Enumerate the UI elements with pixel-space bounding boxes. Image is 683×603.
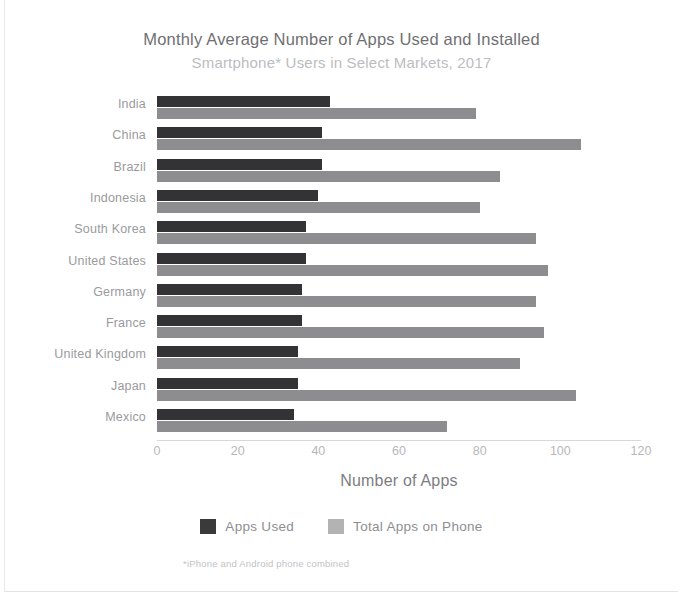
chart-footnote: *iPhone and Android phone combined <box>183 558 349 569</box>
bar-apps-used <box>157 315 302 326</box>
legend-swatch-icon <box>200 519 216 534</box>
category-label: United States <box>68 254 146 268</box>
bar-apps-used <box>157 190 318 201</box>
category-label: Japan <box>111 379 146 393</box>
category-label: South Korea <box>74 222 146 236</box>
bar-apps-used <box>157 221 306 232</box>
x-tick-label: 40 <box>311 444 325 458</box>
category-label: Germany <box>93 285 146 299</box>
category-label: Brazil <box>114 160 146 174</box>
bar-apps-used <box>157 346 298 357</box>
legend-label: Total Apps on Phone <box>353 519 483 534</box>
bar-total-apps <box>157 421 447 432</box>
category-label: France <box>106 316 146 330</box>
bar-apps-used <box>157 96 330 107</box>
x-tick-label: 80 <box>473 444 487 458</box>
plot-area: IndiaChinaBrazilIndonesiaSouth KoreaUnit… <box>157 96 641 440</box>
bar-total-apps <box>157 171 500 182</box>
x-tick-label: 0 <box>154 444 161 458</box>
bar-total-apps <box>157 358 520 369</box>
x-tick-label: 100 <box>550 444 571 458</box>
bar-total-apps <box>157 202 480 213</box>
category-label: Indonesia <box>90 191 146 205</box>
x-tick-label: 20 <box>231 444 245 458</box>
bar-apps-used <box>157 127 322 138</box>
bar-total-apps <box>157 233 536 244</box>
bar-apps-used <box>157 253 306 264</box>
bar-total-apps <box>157 390 576 401</box>
bar-total-apps <box>157 296 536 307</box>
legend-item[interactable]: Apps Used <box>200 519 294 534</box>
x-tick-label: 60 <box>392 444 406 458</box>
category-label: India <box>118 97 146 111</box>
bar-total-apps <box>157 108 476 119</box>
category-label: United Kingdom <box>54 347 146 361</box>
bar-apps-used <box>157 159 322 170</box>
bar-apps-used <box>157 409 294 420</box>
x-tick-label: 120 <box>631 444 652 458</box>
bar-chart-figure: Monthly Average Number of Apps Used and … <box>0 0 683 603</box>
bar-apps-used <box>157 284 302 295</box>
legend-label: Apps Used <box>225 519 294 534</box>
chart-legend: Apps UsedTotal Apps on Phone <box>0 519 683 534</box>
x-axis-tick-labels: 020406080100120 <box>157 444 641 464</box>
bar-total-apps <box>157 139 581 150</box>
chart-subtitle: Smartphone* Users in Select Markets, 201… <box>0 54 683 71</box>
x-axis-title: Number of Apps <box>157 472 641 490</box>
category-label: China <box>112 128 146 142</box>
bar-total-apps <box>157 327 544 338</box>
chart-title: Monthly Average Number of Apps Used and … <box>0 30 683 49</box>
bar-total-apps <box>157 265 548 276</box>
bar-apps-used <box>157 378 298 389</box>
category-label: Mexico <box>105 410 146 424</box>
legend-swatch-icon <box>328 519 344 534</box>
legend-item[interactable]: Total Apps on Phone <box>328 519 483 534</box>
x-axis-line <box>157 440 641 441</box>
